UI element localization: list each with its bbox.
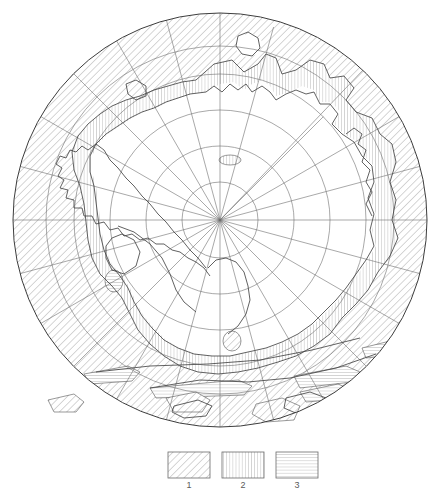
legend-swatch-2 xyxy=(222,452,264,478)
legend-swatch-1 xyxy=(168,452,210,478)
legend-canvas: 1 2 3 xyxy=(0,448,441,492)
legend-swatch-3 xyxy=(276,452,318,478)
legend-label-2: 2 xyxy=(240,480,245,490)
legend-item-3: 3 xyxy=(276,452,318,490)
legend-item-2: 2 xyxy=(222,452,264,490)
antarctica-hatched-map-figure: 1 2 3 xyxy=(0,0,441,492)
legend-label-1: 1 xyxy=(186,480,191,490)
legend-label-3: 3 xyxy=(294,480,299,490)
map-legend: 1 2 3 xyxy=(0,448,441,492)
map-canvas xyxy=(0,0,441,448)
legend-item-1: 1 xyxy=(168,452,210,490)
